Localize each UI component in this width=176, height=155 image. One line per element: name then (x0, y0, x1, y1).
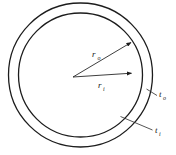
circles-diagram: r o r i t o t i (0, 0, 176, 155)
diagram-canvas: r o r i t o t i (0, 0, 176, 155)
inner-circle (19, 13, 143, 137)
label-radius-inner: r i (98, 80, 105, 92)
label-radius-outer-subscript: o (98, 55, 101, 61)
thickness-outer-leader (147, 89, 158, 96)
label-radius-inner-subscript: i (103, 86, 105, 92)
radius-inner-arrow (73, 73, 132, 77)
label-radius-outer: r o (92, 49, 101, 61)
label-thickness-outer-base: t (159, 89, 162, 99)
label-radius-inner-base: r (98, 80, 102, 90)
label-thickness-inner-subscript: i (159, 131, 161, 137)
thickness-inner-leader (121, 117, 153, 131)
label-radius-outer-base: r (92, 49, 96, 59)
label-thickness-outer-subscript: o (163, 95, 166, 101)
radius-outer-arrow (73, 43, 131, 78)
outer-circle (9, 3, 153, 147)
label-thickness-inner: t i (155, 125, 161, 137)
label-thickness-inner-base: t (155, 125, 158, 135)
label-thickness-outer: t o (159, 89, 166, 101)
